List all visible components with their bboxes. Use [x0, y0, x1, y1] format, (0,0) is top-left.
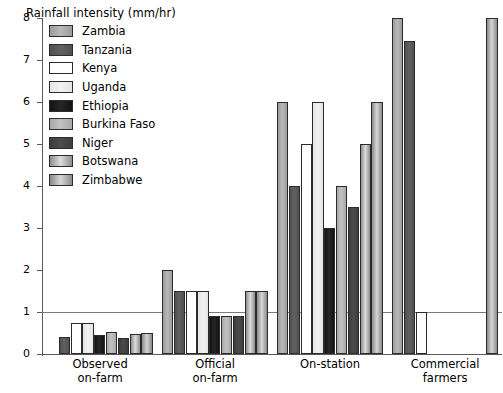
bar-burkina-faso-official-on-farm: [221, 316, 232, 354]
bar-botswana-on-station: [360, 144, 371, 354]
legend-label: Tanzania: [82, 44, 132, 56]
legend-label: Burkina Faso: [82, 118, 155, 130]
y-axis-tick: [37, 354, 42, 355]
y-axis-tick-label: 6: [16, 96, 30, 107]
bar-uganda-official-on-farm: [197, 291, 208, 354]
legend-swatch-icon: [49, 81, 73, 93]
legend-label: Ethiopia: [82, 100, 129, 112]
legend-item-tanzania[interactable]: Tanzania: [49, 41, 155, 60]
bar-niger-on-station: [348, 207, 359, 354]
bar-zimbabwe-official-on-farm: [256, 291, 267, 354]
x-axis-label-line: on-farm: [40, 372, 160, 386]
bar-tanzania-observed-on-farm: [59, 337, 70, 354]
x-axis-label-observed-on-farm: Observedon-farm: [40, 358, 160, 385]
x-axis-label-line: Official: [155, 358, 275, 372]
x-axis-label-commercial-farmers: Commercialfarmers: [385, 358, 503, 385]
bar-ethiopia-observed-on-farm: [94, 335, 105, 354]
legend-swatch-icon: [49, 44, 73, 56]
x-axis-label-official-on-farm: Officialon-farm: [155, 358, 275, 385]
bar-tanzania-commercial-farmers: [404, 41, 415, 354]
bar-zambia-on-station: [277, 102, 288, 354]
bar-kenya-on-station: [301, 144, 312, 354]
chart-legend: ZambiaTanzaniaKenyaUgandaEthiopiaBurkina…: [49, 22, 155, 189]
bar-zambia-commercial-farmers: [392, 18, 403, 354]
y-axis-tick-label: 7: [16, 54, 30, 65]
legend-label: Zimbabwe: [82, 174, 142, 186]
x-axis-label-line: On-station: [270, 358, 390, 372]
x-axis-label-line: farmers: [385, 372, 503, 386]
legend-swatch-icon: [49, 25, 73, 37]
bar-uganda-on-station: [312, 102, 323, 354]
x-axis-label-on-station: On-station: [270, 358, 390, 372]
legend-label: Kenya: [82, 62, 117, 74]
rainfall-intensity-bar-chart: Rainfall intensity (mm/hr) 012345678 Obs…: [0, 0, 503, 393]
legend-label: Uganda: [82, 81, 126, 93]
y-axis-tick-label: 0: [16, 348, 30, 359]
bar-ethiopia-on-station: [324, 228, 335, 354]
y-axis-tick-label: 2: [16, 264, 30, 275]
bar-botswana-observed-on-farm: [130, 334, 141, 354]
legend-swatch-icon: [49, 100, 73, 112]
bar-zimbabwe-commercial-farmers: [486, 18, 497, 354]
bar-ethiopia-official-on-farm: [209, 316, 220, 354]
legend-swatch-icon: [49, 137, 73, 149]
legend-item-kenya[interactable]: Kenya: [49, 59, 155, 78]
legend-swatch-icon: [49, 62, 73, 74]
legend-item-uganda[interactable]: Uganda: [49, 78, 155, 97]
legend-swatch-icon: [49, 118, 73, 130]
legend-item-burkina-faso[interactable]: Burkina Faso: [49, 115, 155, 134]
bar-zimbabwe-on-station: [371, 102, 382, 354]
legend-item-zambia[interactable]: Zambia: [49, 22, 155, 41]
y-axis-tick-label: 8: [16, 12, 30, 23]
bar-burkina-faso-on-station: [336, 186, 347, 354]
x-axis-line: [42, 354, 502, 355]
bar-tanzania-official-on-farm: [174, 291, 185, 354]
bar-burkina-faso-observed-on-farm: [106, 332, 117, 354]
y-axis-tick-label: 3: [16, 222, 30, 233]
x-axis-label-line: on-farm: [155, 372, 275, 386]
legend-swatch-icon: [49, 174, 73, 186]
y-axis-tick-label: 5: [16, 138, 30, 149]
legend-label: Zambia: [82, 25, 126, 37]
bar-zimbabwe-observed-on-farm: [141, 333, 152, 354]
x-axis-label-line: Commercial: [385, 358, 503, 372]
legend-label: Botswana: [82, 155, 138, 167]
y-axis-tick-label: 4: [16, 180, 30, 191]
bar-niger-observed-on-farm: [118, 338, 129, 354]
legend-item-niger[interactable]: Niger: [49, 134, 155, 153]
bar-niger-official-on-farm: [233, 316, 244, 354]
bar-kenya-observed-on-farm: [71, 323, 82, 355]
y-axis-tick-label: 1: [16, 306, 30, 317]
bar-botswana-official-on-farm: [245, 291, 256, 354]
bar-uganda-observed-on-farm: [82, 323, 93, 355]
legend-swatch-icon: [49, 155, 73, 167]
legend-item-botswana[interactable]: Botswana: [49, 152, 155, 171]
x-axis-label-line: Observed: [40, 358, 160, 372]
bar-kenya-commercial-farmers: [416, 312, 427, 354]
bar-kenya-official-on-farm: [186, 291, 197, 354]
bar-tanzania-on-station: [289, 186, 300, 354]
legend-item-zimbabwe[interactable]: Zimbabwe: [49, 171, 155, 190]
legend-label: Niger: [82, 137, 113, 149]
legend-item-ethiopia[interactable]: Ethiopia: [49, 96, 155, 115]
bar-zambia-official-on-farm: [162, 270, 173, 354]
